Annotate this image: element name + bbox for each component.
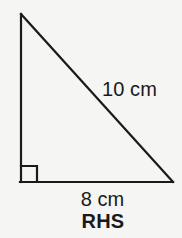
right-angle-square-icon [21,166,37,182]
base-length-label: 8 cm [0,189,182,209]
figure-caption: RHS [0,211,182,231]
hypotenuse-length-label: 10 cm [102,79,157,99]
right-triangle-figure: 10 cm 8 cm RHS [0,0,182,238]
